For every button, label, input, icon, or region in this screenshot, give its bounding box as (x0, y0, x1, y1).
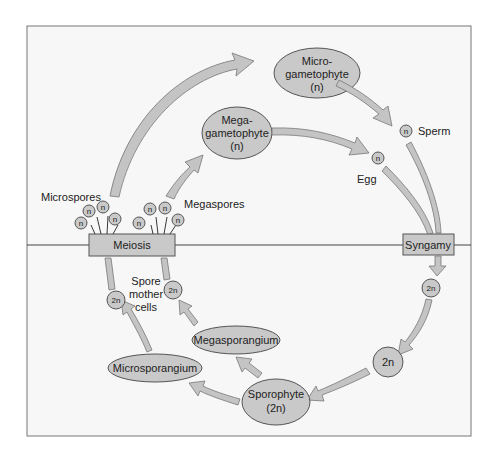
svg-text:n: n (176, 216, 180, 225)
sperm-label: Sperm (418, 125, 450, 137)
microgametophyte-line3: (n) (310, 81, 323, 93)
meiosis-label: Meiosis (113, 239, 151, 251)
megaspores-label: Megaspores (184, 198, 245, 210)
svg-text:n: n (87, 207, 91, 216)
spore-mother-cell-right-label: 2n (169, 286, 178, 295)
svg-text:n: n (163, 204, 167, 213)
svg-text:n: n (79, 219, 83, 228)
sperm-cell: n (400, 125, 412, 137)
spore-mother-cell-right: 2n (164, 281, 182, 299)
svg-text:n: n (148, 205, 152, 214)
svg-text:cells: cells (135, 301, 158, 313)
megasporangium-label: Megasporangium (194, 334, 279, 346)
egg-cell: n (372, 152, 384, 164)
syngamy-label: Syngamy (405, 239, 451, 251)
microsporangium-label: Microsporangium (113, 362, 197, 374)
microsporangium-node: Microsporangium (108, 354, 202, 382)
meiosis-box: Meiosis (89, 234, 175, 256)
svg-text:n: n (101, 203, 105, 212)
life-cycle-diagram: Micro- gametophyte (n) Mega- gametophyte… (0, 0, 496, 457)
svg-text:Spore: Spore (131, 275, 160, 287)
sporophyte-line1: Sporophyte (248, 388, 304, 400)
embryo-cell: 2n (373, 347, 403, 377)
svg-text:mother: mother (129, 288, 164, 300)
microspores-label: Microspores (41, 191, 101, 203)
egg-cell-label: n (376, 154, 380, 163)
zygote-cell: 2n (422, 279, 440, 297)
svg-text:n: n (113, 215, 117, 224)
spore-mother-cell-left-label: 2n (112, 296, 121, 305)
microgametophyte-line1: Micro- (302, 55, 333, 67)
zygote-label: 2n (427, 284, 436, 293)
megasporangium-node: Megasporangium (192, 326, 280, 354)
syngamy-box: Syngamy (403, 234, 454, 255)
megagametophyte-line1: Mega- (221, 114, 253, 126)
megagametophyte-line2: gametophyte (205, 127, 269, 139)
egg-label: Egg (357, 173, 377, 185)
embryo-label: 2n (382, 356, 394, 368)
sporophyte-line2: (2n) (266, 402, 286, 414)
sperm-cell-label: n (404, 127, 408, 136)
megagametophyte-node: Mega- gametophyte (n) (202, 107, 272, 159)
sporophyte-node: Sporophyte (2n) (242, 379, 310, 425)
microgametophyte-line2: gametophyte (285, 68, 349, 80)
svg-text:n: n (137, 219, 141, 228)
megagametophyte-line3: (n) (230, 140, 243, 152)
spore-mother-cell-left: 2n (107, 291, 125, 309)
